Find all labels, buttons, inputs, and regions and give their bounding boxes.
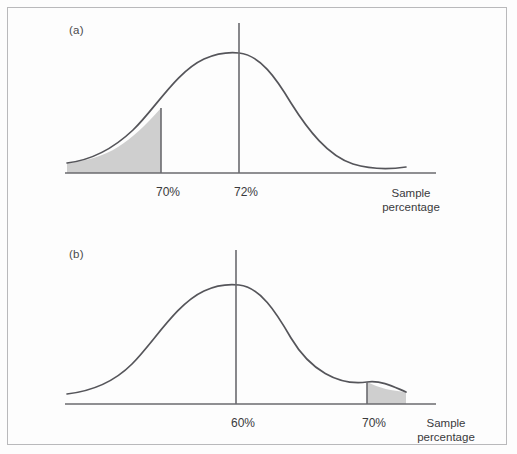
panel-a-tick-label-70: 70% bbox=[156, 185, 180, 199]
panel-b-shaded-right-tail bbox=[367, 382, 406, 404]
panel-b: (b) 60% 70% Sample percentage bbox=[8, 230, 508, 446]
panel-b-tick-label-70: 70% bbox=[362, 416, 386, 430]
panel-a-x-axis-label-line2: percentage bbox=[382, 200, 440, 214]
panel-b-x-axis-label-line2: percentage bbox=[417, 430, 475, 444]
panel-b-tick-label-60: 60% bbox=[231, 416, 255, 430]
panel-a-shaded-left-tail bbox=[67, 108, 161, 173]
panel-a-tag: (a) bbox=[69, 24, 84, 36]
panel-b-x-axis-label-line1: Sample bbox=[427, 416, 466, 430]
panel-a-tick-label-72: 72% bbox=[234, 185, 258, 199]
panel-b-tag: (b) bbox=[69, 248, 84, 260]
panel-b-plot bbox=[8, 230, 508, 446]
figure-frame: (a) 70% 72% Sample percentage (b) 60% 70… bbox=[7, 7, 507, 445]
panel-a-x-axis-label-line1: Sample bbox=[392, 186, 431, 200]
panel-a: (a) 70% 72% Sample percentage bbox=[8, 8, 508, 230]
